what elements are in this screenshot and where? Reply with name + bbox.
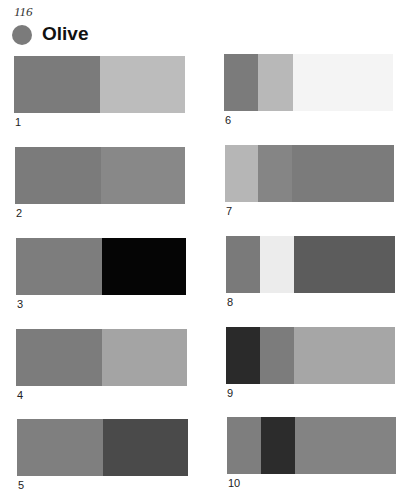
combination-number: 3: [17, 298, 23, 310]
color-segment: [15, 147, 101, 204]
color-segment: [100, 56, 185, 113]
combination-number: 1: [15, 116, 21, 128]
color-segment: [293, 54, 393, 111]
color-combination-3: [16, 238, 186, 295]
color-segment: [261, 417, 295, 474]
color-segment: [102, 238, 186, 295]
page-title: Olive: [42, 23, 88, 45]
color-segment: [102, 329, 187, 386]
olive-swatch-dot: [12, 25, 32, 45]
combination-number: 6: [225, 114, 231, 126]
combination-number: 9: [227, 387, 233, 399]
color-segment: [226, 236, 260, 293]
combination-number: 10: [228, 477, 240, 489]
combination-number: 4: [17, 389, 23, 401]
color-combination-1: [14, 56, 185, 113]
color-segment: [225, 145, 258, 202]
combination-number: 7: [226, 205, 232, 217]
color-segment: [16, 238, 102, 295]
color-combination-10: [227, 417, 396, 474]
color-segment: [260, 327, 294, 384]
color-combination-8: [226, 236, 395, 293]
color-combination-6: [224, 54, 393, 111]
color-segment: [224, 54, 258, 111]
color-segment: [258, 54, 293, 111]
color-segment: [16, 329, 102, 386]
color-segment: [294, 236, 395, 293]
color-segment: [295, 417, 396, 474]
color-segment: [258, 145, 292, 202]
page-number: 116: [14, 4, 33, 20]
color-segment: [292, 145, 394, 202]
color-combination-7: [225, 145, 394, 202]
combination-number: 2: [16, 207, 22, 219]
color-combination-4: [16, 329, 187, 386]
combination-number: 8: [227, 296, 233, 308]
color-combination-2: [15, 147, 185, 204]
color-segment: [260, 236, 294, 293]
color-combination-9: [226, 327, 395, 384]
color-combination-5: [17, 419, 188, 476]
color-segment: [14, 56, 100, 113]
color-segment: [226, 327, 260, 384]
color-segment: [17, 419, 103, 476]
combination-number: 5: [18, 479, 24, 491]
color-segment: [103, 419, 188, 476]
color-segment: [294, 327, 395, 384]
color-segment: [101, 147, 185, 204]
color-segment: [227, 417, 261, 474]
